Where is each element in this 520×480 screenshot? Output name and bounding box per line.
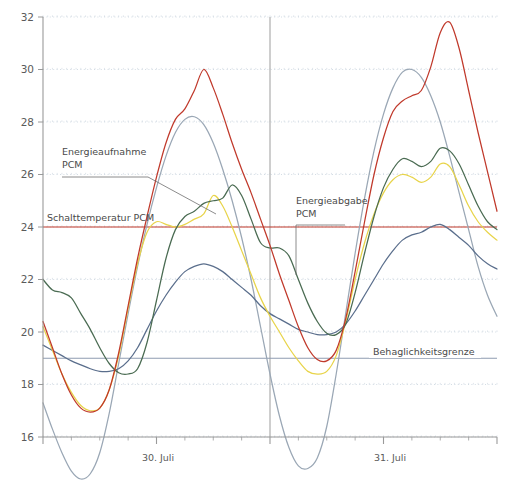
y-tick-label: 24 xyxy=(21,221,35,233)
y-tick-label: 18 xyxy=(21,378,34,390)
x-tick-label-day1: 30. Juli xyxy=(142,452,174,463)
annotation-energieaufnahme-leader xyxy=(62,177,216,214)
annotation-energieaufnahme-line1: Energieaufnahme xyxy=(62,146,146,157)
y-axis-tick-labels: 161820222426283032 xyxy=(21,11,35,443)
chart-container: 161820222426283032 30. Juli 31. Juli Ene… xyxy=(0,0,520,480)
annotation-energieaufnahme: Energieaufnahme PCM xyxy=(62,146,216,214)
y-tick-label: 22 xyxy=(21,273,34,285)
annotation-energieabgabe-line1: Energieabgabe xyxy=(296,195,368,206)
y-tick-label: 28 xyxy=(21,116,34,128)
annotation-energieabgabe-line2: PCM xyxy=(296,208,317,219)
y-axis-ticks xyxy=(38,17,43,437)
x-tick-label-day2: 31. Juli xyxy=(374,452,406,463)
annotation-energieaufnahme-line2: PCM xyxy=(62,159,83,170)
annotation-behaglichkeitsgrenze-text: Behaglichkeitsgrenze xyxy=(373,346,475,357)
y-tick-label: 20 xyxy=(21,326,34,338)
y-tick-label: 16 xyxy=(21,431,35,443)
annotation-energieabgabe-leader xyxy=(296,225,345,275)
temperature-line-chart: 161820222426283032 30. Juli 31. Juli Ene… xyxy=(0,0,520,480)
y-tick-label: 26 xyxy=(21,168,35,180)
annotation-schalttemperatur: Schalttemperatur PCM xyxy=(47,212,154,223)
x-axis-ticks xyxy=(43,437,497,444)
y-tick-label: 32 xyxy=(21,11,34,23)
y-tick-label: 30 xyxy=(21,63,34,75)
